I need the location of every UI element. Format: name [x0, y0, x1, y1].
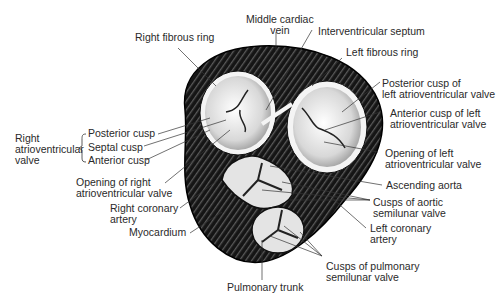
label-ascending-aorta: Ascending aorta — [386, 180, 462, 191]
label-right-coronary: Right coronary artery — [110, 203, 178, 225]
label-right-av-valve: Right atrioventricular valve — [15, 133, 84, 166]
label-left-coronary: Left coronary artery — [370, 223, 431, 245]
label-posterior-cusp-left: Posterior cusp of left atrioventricular … — [382, 78, 495, 100]
label-left-fibrous-ring: Left fibrous ring — [346, 47, 418, 58]
label-cusps-aortic: Cusps of aortic semilunar valve — [373, 197, 446, 219]
label-pulmonary-trunk: Pulmonary trunk — [227, 282, 303, 293]
label-interventricular-septum: Interventricular septum — [318, 26, 425, 37]
label-right-fibrous-ring: Right fibrous ring — [135, 32, 214, 43]
label-cusps-pulmonary: Cusps of pulmonary semilunar valve — [326, 261, 419, 283]
label-middle-cardiac-vein: Middle cardiac vein — [246, 14, 314, 36]
label-septal-cusp: Septal cusp — [88, 142, 143, 153]
label-opening-right: Opening of right atrioventricular valve — [76, 177, 172, 199]
label-opening-left: Opening of left atrioventricular valve — [385, 148, 481, 170]
label-posterior-cusp: Posterior cusp — [88, 128, 155, 139]
label-myocardium: Myocardium — [129, 227, 186, 238]
label-anterior-cusp-left: Anterior cusp of left atrioventricular v… — [390, 108, 486, 130]
label-anterior-cusp: Anterior cusp — [88, 155, 150, 166]
